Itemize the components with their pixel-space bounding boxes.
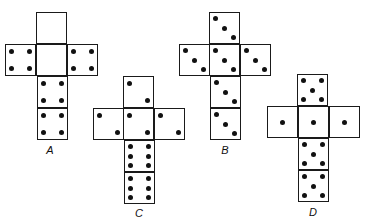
pip-dot	[302, 193, 307, 198]
pip-dot	[27, 66, 32, 71]
die-face-right	[240, 44, 271, 76]
pip-dot	[223, 90, 228, 95]
die-face-center	[123, 108, 154, 140]
pip-dot	[158, 113, 163, 118]
pip-dot	[128, 186, 133, 191]
pip-dot	[41, 81, 46, 86]
die-face-bottom2	[37, 108, 68, 140]
pip-dot	[222, 26, 227, 31]
pip-dot	[146, 154, 151, 159]
pip-dot	[192, 58, 197, 63]
die-face-left	[267, 106, 298, 138]
pip-dot	[311, 184, 316, 189]
pip-dot	[41, 98, 46, 103]
die-face-left	[179, 44, 210, 76]
pip-dot	[214, 112, 219, 117]
pip-dot	[145, 98, 150, 103]
pip-dot	[320, 142, 325, 147]
die-face-top	[209, 12, 240, 44]
pip-dot	[97, 113, 102, 118]
pip-dot	[146, 186, 151, 191]
pip-dot	[27, 49, 32, 54]
pip-dot	[146, 163, 151, 168]
pip-dot	[222, 58, 227, 63]
pip-dot	[231, 35, 236, 40]
pip-dot	[280, 120, 285, 125]
pip-dot	[146, 144, 151, 149]
pip-dot	[311, 120, 316, 125]
pip-dot	[319, 78, 324, 83]
pip-dot	[320, 174, 325, 179]
pip-dot	[59, 113, 64, 118]
pip-dot	[176, 130, 181, 135]
pip-dot	[214, 80, 219, 85]
pip-dot	[71, 66, 76, 71]
die-face-right	[67, 44, 98, 76]
pip-dot	[127, 113, 132, 118]
die-face-left	[5, 44, 36, 76]
pip-dot	[213, 48, 218, 53]
pip-dot	[253, 58, 258, 63]
pip-dot	[302, 174, 307, 179]
die-face-bottom2	[210, 108, 241, 140]
die-face-top	[36, 12, 67, 44]
die-face-bottom1	[124, 140, 155, 172]
die-face-left	[93, 108, 124, 140]
pip-dot	[262, 67, 267, 72]
die-face-center	[298, 106, 329, 138]
pip-dot	[41, 130, 46, 135]
pip-dot	[146, 176, 151, 181]
die-face-right	[329, 106, 360, 138]
pip-dot	[128, 195, 133, 200]
pip-dot	[115, 130, 120, 135]
pip-dot	[59, 98, 64, 103]
pip-dot	[89, 66, 94, 71]
die-face-center	[209, 44, 240, 76]
pip-dot	[59, 130, 64, 135]
pip-dot	[232, 99, 237, 104]
die-face-right	[154, 108, 185, 140]
pip-dot	[201, 67, 206, 72]
die-face-bottom1	[298, 138, 329, 170]
net-label-d: D	[303, 206, 323, 218]
pip-dot	[311, 152, 316, 157]
pip-dot	[9, 66, 14, 71]
net-label-b: B	[215, 144, 235, 156]
pip-dot	[302, 161, 307, 166]
die-face-center	[36, 44, 67, 76]
die-face-bottom2	[124, 172, 155, 204]
pip-dot	[146, 195, 151, 200]
pip-dot	[301, 78, 306, 83]
pip-dot	[128, 176, 133, 181]
pip-dot	[320, 193, 325, 198]
pip-dot	[127, 81, 132, 86]
pip-dot	[319, 97, 324, 102]
pip-dot	[244, 48, 249, 53]
pip-dot	[232, 131, 237, 136]
die-face-bottom1	[210, 76, 241, 108]
pip-dot	[145, 130, 150, 135]
pip-dot	[59, 81, 64, 86]
die-face-top	[297, 74, 328, 106]
pip-dot	[128, 144, 133, 149]
die-face-top	[123, 76, 154, 108]
pip-dot	[320, 161, 325, 166]
pip-dot	[41, 113, 46, 118]
net-label-c: C	[129, 207, 149, 219]
pip-dot	[302, 142, 307, 147]
pip-dot	[301, 97, 306, 102]
pip-dot	[213, 16, 218, 21]
die-face-bottom2	[298, 170, 329, 202]
pip-dot	[128, 163, 133, 168]
pip-dot	[231, 67, 236, 72]
net-label-a: A	[40, 144, 60, 156]
pip-dot	[71, 49, 76, 54]
pip-dot	[342, 120, 347, 125]
pip-dot	[183, 48, 188, 53]
pip-dot	[89, 49, 94, 54]
die-face-bottom1	[37, 76, 68, 108]
pip-dot	[128, 154, 133, 159]
pip-dot	[223, 122, 228, 127]
pip-dot	[310, 88, 315, 93]
pip-dot	[9, 49, 14, 54]
